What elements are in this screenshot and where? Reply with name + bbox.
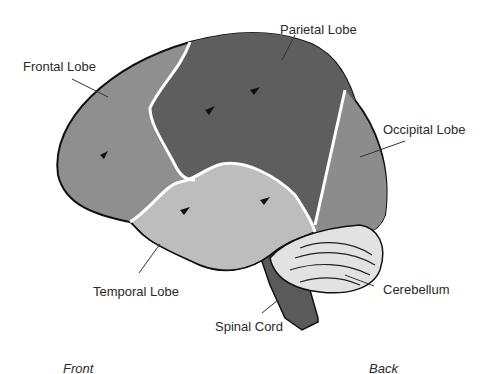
label-temporal-lobe: Temporal Lobe bbox=[93, 285, 179, 298]
label-back: Back bbox=[369, 362, 398, 374]
label-parietal-lobe: Parietal Lobe bbox=[280, 23, 357, 36]
label-occipital-lobe: Occipital Lobe bbox=[383, 123, 465, 136]
label-cerebellum: Cerebellum bbox=[383, 283, 449, 296]
label-frontal-lobe: Frontal Lobe bbox=[23, 60, 96, 73]
brain-diagram bbox=[0, 0, 492, 374]
label-front: Front bbox=[63, 362, 93, 374]
label-spinal-cord: Spinal Cord bbox=[215, 320, 283, 333]
